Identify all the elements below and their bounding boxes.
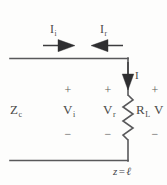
reflected-voltage-subscript: r [113,110,116,119]
reflected-voltage-symbol: V [103,102,112,117]
circuit-schematic-canvas [0,0,167,185]
load-current-arrow [122,62,134,90]
position-equals: = [119,165,125,177]
load-current-arrow-head [122,74,134,90]
position-value: ℓ [127,165,132,177]
position-marker-label: z=ℓ [113,166,131,177]
load-voltage-label: V [154,103,163,116]
reflected-current-symbol: I [100,22,104,36]
load-voltage-minus-sign: − [149,128,161,140]
incident-voltage-label: Vi [63,103,75,116]
load-voltage-plus-sign: + [149,84,161,96]
characteristic-impedance-label: Zc [10,103,22,116]
incident-current-symbol: I [50,22,54,36]
load-resistor [123,95,133,140]
incident-current-label: Ii [50,23,56,35]
position-variable: z [113,165,117,177]
reflected-current-arrow-head [91,40,108,52]
load-current-label: I [135,70,139,81]
characteristic-impedance-subscript: c [18,110,22,119]
transmission-line-figure: Ii Ir I Zc Vi Vr RL V + + + − − − z=ℓ [0,0,167,185]
load-resistance-label: RL [136,103,150,116]
incident-voltage-minus-sign: − [62,128,74,140]
reflected-current-arrow [91,40,123,52]
load-resistance-subscript: L [145,110,150,119]
reflected-voltage-minus-sign: − [102,128,114,140]
reflected-voltage-label: Vr [103,103,115,116]
incident-current-arrow [43,40,75,52]
reflected-voltage-plus-sign: + [102,84,114,96]
incident-voltage-subscript: i [73,110,75,119]
load-resistance-symbol: R [136,102,145,117]
reflected-current-subscript: r [105,29,107,38]
incident-current-arrow-head [58,40,75,52]
load-current-symbol: I [135,69,139,81]
reflected-current-label: Ir [100,23,106,35]
incident-voltage-symbol: V [63,102,72,117]
incident-current-subscript: i [55,29,57,38]
load-voltage-symbol: V [154,102,163,117]
characteristic-impedance-symbol: Z [10,102,18,117]
incident-voltage-plus-sign: + [62,84,74,96]
